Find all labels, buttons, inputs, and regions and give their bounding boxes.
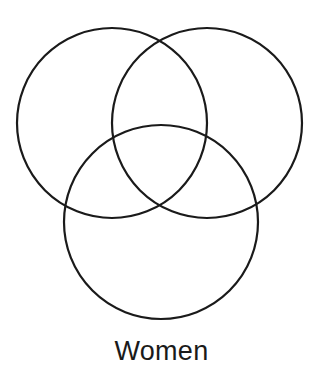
venn-diagram <box>0 0 329 367</box>
diagram-label: Women <box>0 336 323 367</box>
venn-circle-bottom <box>64 125 258 319</box>
